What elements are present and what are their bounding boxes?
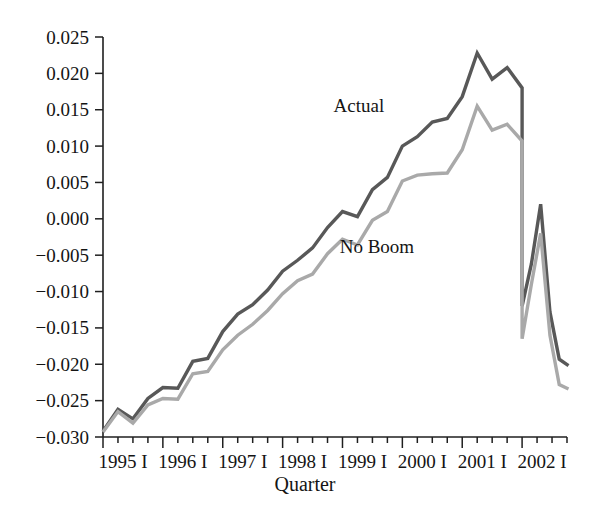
y-axis-tick-labels: 0.0250.0200.0150.0100.0050.000−0.005−0.0… (36, 27, 89, 448)
chart-container: 0.0250.0200.0150.0100.0050.000−0.005−0.0… (0, 0, 593, 514)
y-axis-group: 0.0250.0200.0150.0100.0050.000−0.005−0.0… (36, 27, 103, 448)
y-tick-label: −0.030 (36, 427, 89, 448)
y-tick-label: −0.025 (36, 390, 89, 411)
y-tick-label: 0.025 (46, 27, 89, 48)
y-tick-label: 0.000 (46, 208, 89, 229)
y-tick-label: −0.010 (36, 281, 89, 302)
y-axis-ticks (95, 37, 103, 437)
y-tick-label: 0.020 (46, 63, 89, 84)
x-tick-label: 2001 I (458, 451, 507, 472)
x-tick-label: 1995 I (98, 451, 147, 472)
y-tick-label: 0.010 (46, 136, 89, 157)
y-tick-label: −0.005 (36, 245, 89, 266)
y-tick-label: −0.015 (36, 317, 89, 338)
series-line-no-boom (103, 106, 569, 432)
x-tick-label: 1997 I (218, 451, 267, 472)
x-tick-label: 1999 I (338, 451, 387, 472)
series-annotations: ActualNo Boom (334, 95, 415, 257)
x-tick-label: 1998 I (278, 451, 327, 472)
x-tick-label: 2002 I (518, 451, 567, 472)
x-tick-label: 1996 I (158, 451, 207, 472)
x-axis-title: Quarter (274, 473, 335, 495)
x-axis-group: 1995 I1996 I1997 I1998 I1999 I2000 I2001… (98, 437, 567, 472)
series-label-no-boom: No Boom (340, 236, 415, 257)
series-label-actual: Actual (334, 95, 385, 116)
x-axis-tick-labels: 1995 I1996 I1997 I1998 I1999 I2000 I2001… (98, 451, 566, 472)
y-tick-label: −0.020 (36, 354, 89, 375)
x-tick-label: 2000 I (398, 451, 447, 472)
x-axis-ticks (103, 437, 567, 448)
y-tick-label: 0.005 (46, 172, 89, 193)
line-chart: 0.0250.0200.0150.0100.0050.000−0.005−0.0… (0, 0, 593, 514)
y-tick-label: 0.015 (46, 99, 89, 120)
